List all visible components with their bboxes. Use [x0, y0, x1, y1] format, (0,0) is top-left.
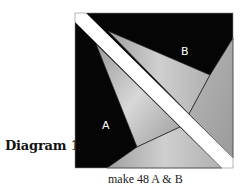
piece-label-b: B — [181, 45, 189, 58]
piece-label-a: A — [102, 119, 110, 132]
quilt-block-diagram: B A — [0, 0, 245, 190]
caption: make 48 A & B — [108, 172, 183, 187]
